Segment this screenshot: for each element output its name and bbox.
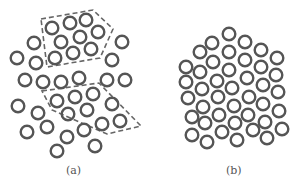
ring	[69, 91, 82, 104]
ring	[80, 14, 93, 27]
ring	[206, 37, 219, 50]
ring	[19, 74, 32, 87]
ring	[49, 52, 62, 65]
ring	[194, 46, 207, 59]
ring	[211, 75, 224, 88]
ring	[62, 108, 75, 121]
ring	[213, 109, 226, 122]
ring	[64, 17, 77, 30]
ring	[239, 36, 252, 49]
lower-domain-outline	[42, 83, 141, 134]
ring	[85, 43, 98, 56]
ring	[119, 74, 132, 87]
ring	[89, 140, 102, 153]
ring	[28, 37, 41, 50]
ring	[194, 66, 207, 79]
ring	[81, 104, 94, 117]
ring	[272, 86, 285, 99]
ring	[11, 52, 24, 65]
ring	[55, 36, 68, 49]
ring	[32, 107, 45, 120]
ring	[231, 134, 244, 147]
ring	[37, 76, 50, 89]
ring	[199, 117, 212, 130]
panel-a	[11, 10, 141, 157]
ring	[223, 28, 236, 41]
ring	[51, 95, 64, 108]
ring	[259, 116, 272, 129]
ring	[186, 129, 199, 142]
ring	[46, 22, 59, 35]
ring	[223, 46, 236, 59]
rings-panel-b	[180, 28, 289, 149]
ring	[87, 88, 100, 101]
ring	[74, 31, 87, 44]
ring	[243, 91, 256, 104]
figure-canvas	[0, 0, 301, 191]
ring	[271, 52, 284, 65]
ring	[21, 126, 34, 139]
ring	[201, 136, 214, 149]
ring	[223, 64, 236, 77]
panel-label-b: (b)	[226, 164, 242, 177]
ring	[276, 123, 289, 136]
ring	[261, 132, 274, 145]
panel-label-a: (a)	[66, 164, 81, 177]
ring	[67, 47, 80, 60]
ring	[114, 115, 127, 128]
ring	[116, 36, 129, 49]
ring	[101, 74, 114, 87]
ring	[41, 121, 54, 134]
ring	[180, 76, 193, 89]
ring	[73, 72, 86, 85]
ring	[207, 56, 220, 69]
panel-b	[180, 28, 289, 149]
ring	[257, 79, 270, 92]
ring	[180, 61, 193, 74]
ring	[255, 61, 268, 74]
ring	[78, 124, 91, 137]
rings-panel-a	[11, 14, 132, 158]
ring	[212, 91, 225, 104]
ring	[226, 82, 239, 95]
ring	[55, 76, 68, 89]
ring	[257, 98, 270, 111]
ring	[182, 92, 195, 105]
ring	[247, 124, 260, 137]
ring	[229, 117, 242, 130]
ring	[228, 100, 241, 113]
ring	[196, 83, 209, 96]
ring	[92, 26, 105, 39]
ring	[241, 72, 254, 85]
ring	[106, 98, 119, 111]
ring	[270, 69, 283, 82]
ring	[61, 131, 74, 144]
ring	[51, 145, 64, 158]
ring	[216, 126, 229, 139]
ring	[242, 109, 255, 122]
ring	[197, 101, 210, 114]
ring	[30, 57, 43, 70]
ring	[186, 111, 199, 124]
ring	[239, 54, 252, 67]
ring	[273, 105, 286, 118]
ring	[255, 44, 268, 57]
ring	[12, 100, 25, 113]
ring	[106, 54, 119, 67]
ring	[96, 118, 109, 131]
